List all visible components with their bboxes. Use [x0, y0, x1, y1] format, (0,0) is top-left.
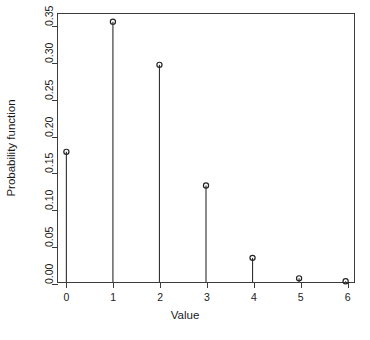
y-tick-label-text: 0.30 — [44, 43, 55, 63]
y-tick-label: 0.30 — [44, 53, 55, 73]
x-tick-mark — [207, 282, 208, 288]
x-tick-mark — [160, 282, 161, 288]
y-tick-label-text: 0.15 — [44, 153, 55, 173]
y-tick-label: 0.00 — [44, 274, 55, 294]
x-tick-mark — [66, 282, 67, 288]
x-tick-mark — [113, 282, 114, 288]
y-tick-label: 0.35 — [44, 16, 55, 36]
x-tick-label: 6 — [345, 292, 351, 303]
x-axis-title: Value — [0, 309, 370, 321]
data-layer — [58, 14, 354, 282]
x-tick-mark — [301, 282, 302, 288]
y-tick-label-text: 0.00 — [44, 264, 55, 284]
x-tick-label: 2 — [157, 292, 163, 303]
plot-area: 0.000.050.100.150.200.250.300.35 0123456 — [57, 13, 355, 283]
x-tick-mark — [254, 282, 255, 288]
y-tick-label: 0.05 — [44, 237, 55, 257]
y-tick-label-text: 0.05 — [44, 227, 55, 247]
y-tick-label-text: 0.25 — [44, 79, 55, 99]
x-tick-label: 0 — [64, 292, 70, 303]
y-axis-title-text: Probability function — [5, 99, 17, 196]
y-tick-label: 0.15 — [44, 163, 55, 183]
y-tick-label: 0.25 — [44, 90, 55, 110]
y-tick-label-text: 0.10 — [44, 190, 55, 210]
y-axis-title: Probability function — [4, 13, 18, 283]
y-tick-label-text: 0.35 — [44, 6, 55, 26]
caption-sliver — [0, 331, 370, 340]
x-axis-title-text: Value — [171, 309, 200, 321]
y-tick-label: 0.20 — [44, 126, 55, 146]
probability-function-chart: Probability function 0.000.050.100.150.2… — [0, 0, 370, 340]
x-tick-label: 1 — [110, 292, 116, 303]
y-tick-label: 0.10 — [44, 200, 55, 220]
x-tick-label: 3 — [204, 292, 210, 303]
x-tick-label: 4 — [251, 292, 257, 303]
y-tick-label-text: 0.20 — [44, 116, 55, 136]
x-tick-label: 5 — [298, 292, 304, 303]
